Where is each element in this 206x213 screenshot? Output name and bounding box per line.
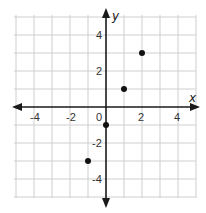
y-axis-up-arrow-icon [102,8,110,18]
x-axis-label: x [188,91,197,105]
data-point [85,158,91,164]
x-tick-label: 4 [174,111,180,123]
y-axis-down-arrow-icon [102,198,110,208]
y-tick-label: -2 [92,137,102,149]
x-tick-label: -4 [30,111,40,123]
axes [12,8,200,208]
data-point [139,50,145,56]
data-point [103,122,109,128]
x-axis-left-arrow-icon [12,103,22,111]
y-tick-label: -4 [92,173,102,185]
y-tick-label: 4 [96,29,102,41]
y-tick-label: 2 [96,65,102,77]
x-tick-label: -2 [66,111,76,123]
coordinate-plane: xy-4-202442-2-4 [0,0,206,213]
data-point [121,86,127,92]
x-tick-label: 2 [138,111,144,123]
origin-label: 0 [96,111,102,123]
y-axis-label: y [111,9,120,23]
